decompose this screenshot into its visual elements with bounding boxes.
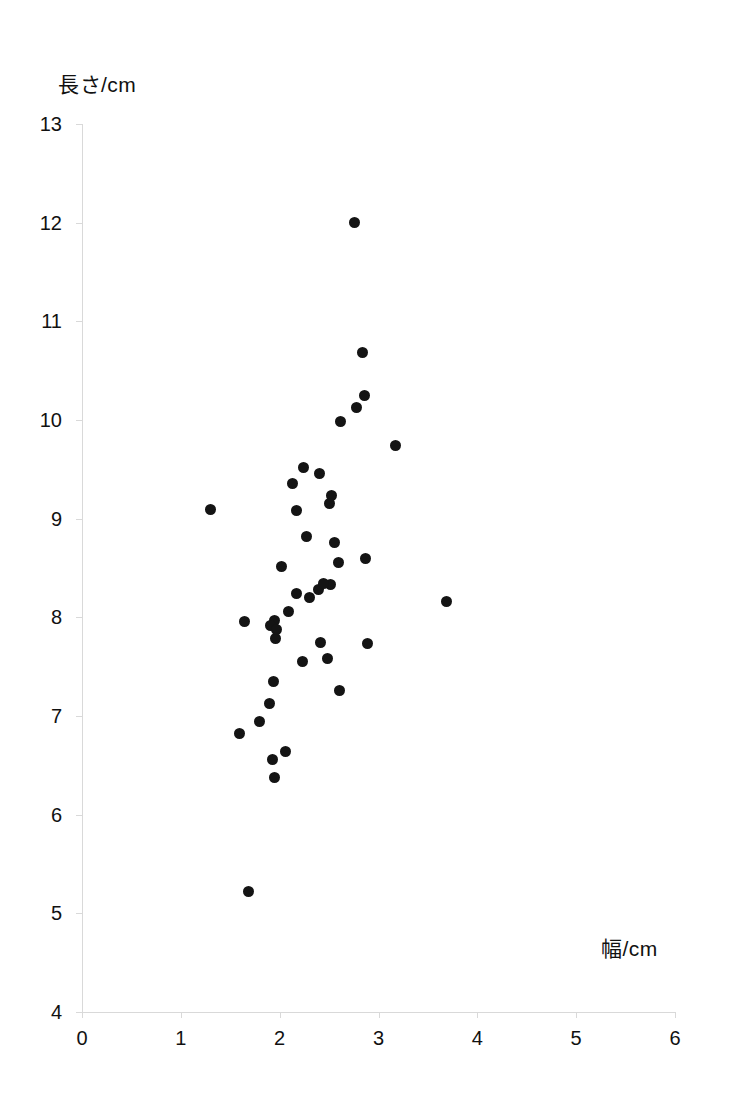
data-point bbox=[267, 754, 278, 765]
data-point bbox=[234, 728, 245, 739]
data-point bbox=[205, 504, 216, 515]
x-tick-mark bbox=[181, 1012, 182, 1018]
data-point bbox=[315, 637, 326, 648]
x-tick-label: 4 bbox=[457, 1027, 497, 1050]
data-point bbox=[280, 746, 291, 757]
data-point bbox=[254, 716, 265, 727]
data-point bbox=[243, 886, 254, 897]
data-point bbox=[291, 505, 302, 516]
y-tick-mark bbox=[76, 519, 82, 520]
data-point bbox=[264, 698, 275, 709]
data-point bbox=[239, 616, 250, 627]
y-tick-label: 12 bbox=[16, 211, 62, 234]
y-tick-label: 4 bbox=[16, 1001, 62, 1024]
y-tick-label: 13 bbox=[16, 113, 62, 136]
data-point bbox=[322, 653, 333, 664]
data-point bbox=[351, 402, 362, 413]
data-point bbox=[334, 685, 345, 696]
y-tick-label: 8 bbox=[16, 606, 62, 629]
y-tick-mark bbox=[76, 617, 82, 618]
x-tick-mark bbox=[82, 1012, 83, 1018]
data-point bbox=[441, 596, 452, 607]
y-tick-label: 5 bbox=[16, 902, 62, 925]
y-tick-mark bbox=[76, 124, 82, 125]
y-tick-mark bbox=[76, 913, 82, 914]
x-tick-mark bbox=[379, 1012, 380, 1018]
data-point bbox=[362, 638, 373, 649]
data-point bbox=[283, 606, 294, 617]
data-point bbox=[314, 468, 325, 479]
x-tick-label: 5 bbox=[556, 1027, 596, 1050]
y-tick-label: 11 bbox=[16, 310, 62, 333]
x-tick-mark bbox=[280, 1012, 281, 1018]
x-tick-label: 3 bbox=[359, 1027, 399, 1050]
data-point bbox=[359, 390, 370, 401]
data-point bbox=[329, 537, 340, 548]
x-tick-mark bbox=[576, 1012, 577, 1018]
data-point bbox=[318, 578, 329, 589]
data-point bbox=[335, 416, 346, 427]
y-tick-label: 10 bbox=[16, 409, 62, 432]
y-tick-label: 9 bbox=[16, 507, 62, 530]
y-tick-label: 7 bbox=[16, 705, 62, 728]
data-point bbox=[324, 498, 335, 509]
x-tick-label: 1 bbox=[161, 1027, 201, 1050]
data-point bbox=[291, 588, 302, 599]
x-tick-label: 2 bbox=[260, 1027, 300, 1050]
x-axis-title: 幅/cm bbox=[601, 932, 658, 962]
y-tick-mark bbox=[76, 420, 82, 421]
data-point bbox=[297, 656, 308, 667]
data-point bbox=[268, 676, 279, 687]
y-tick-mark bbox=[76, 815, 82, 816]
x-tick-label: 6 bbox=[655, 1027, 695, 1050]
y-axis-title: 長さ/cm bbox=[58, 68, 136, 98]
y-tick-label: 6 bbox=[16, 803, 62, 826]
scatter-chart-figure: 長さ/cm 幅/cm 13121110987654 0123456 bbox=[0, 0, 736, 1118]
data-point bbox=[357, 347, 368, 358]
y-tick-mark bbox=[76, 223, 82, 224]
data-point bbox=[287, 478, 298, 489]
data-point bbox=[304, 592, 315, 603]
x-tick-mark bbox=[675, 1012, 676, 1018]
data-point bbox=[349, 217, 360, 228]
data-point bbox=[271, 624, 282, 635]
data-point bbox=[298, 462, 309, 473]
y-tick-mark bbox=[76, 716, 82, 717]
y-tick-mark bbox=[76, 321, 82, 322]
data-point bbox=[301, 531, 312, 542]
x-tick-mark bbox=[477, 1012, 478, 1018]
data-point bbox=[269, 772, 280, 783]
x-tick-label: 0 bbox=[62, 1027, 102, 1050]
data-point bbox=[360, 553, 371, 564]
data-point bbox=[276, 561, 287, 572]
data-point bbox=[390, 440, 401, 451]
data-point bbox=[333, 557, 344, 568]
y-axis-line bbox=[82, 124, 83, 1013]
